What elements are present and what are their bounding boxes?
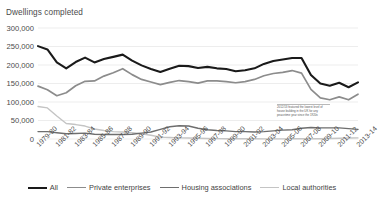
legend-label: Private enterprises (89, 183, 151, 192)
chart-legend: AllPrivate enterprisesHousing associatio… (0, 183, 364, 192)
legend-item[interactable]: Local authorities (260, 183, 336, 192)
y-axis-tick-label: 250,000 (0, 42, 34, 51)
legend-label: All (50, 183, 58, 192)
y-axis-tick-label: 50,000 (0, 116, 34, 125)
y-axis-tick-label: 300,000 (0, 24, 34, 33)
legend-swatch (67, 187, 86, 188)
legend-swatch (28, 187, 47, 189)
legend-item[interactable]: All (28, 183, 58, 192)
legend-swatch (260, 187, 279, 188)
legend-label: Local authorities (282, 183, 336, 192)
y-axis-tick-label: 150,000 (0, 79, 34, 88)
chart-annotation: 2012/13 featured the lowest level of hou… (277, 104, 330, 117)
series-lines (38, 46, 358, 139)
legend-swatch (160, 187, 179, 188)
y-axis-tick-label: 100,000 (0, 98, 34, 107)
y-axis-tick-label: 200,000 (0, 61, 34, 70)
y-axis-tick-label: 0 (0, 135, 34, 144)
legend-item[interactable]: Housing associations (160, 183, 252, 192)
legend-item[interactable]: Private enterprises (67, 183, 151, 192)
legend-label: Housing associations (182, 183, 252, 192)
